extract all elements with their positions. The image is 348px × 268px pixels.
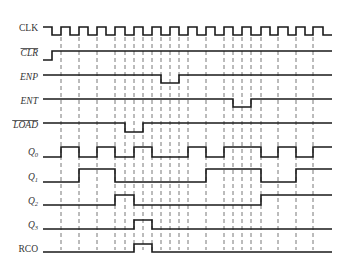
waveform-q1 [43, 169, 332, 182]
signal-label-q3: Q3 [28, 220, 39, 231]
signal-label-ent: ENT [20, 96, 39, 106]
timing-diagram: CLKCLRENPENTLOADQ0Q1Q2Q3RCO [0, 0, 348, 268]
signal-label-q2: Q2 [28, 196, 39, 207]
waveform-q2 [43, 195, 332, 205]
signal-waveforms [43, 27, 332, 252]
waveform-enp [43, 75, 332, 83]
signal-label-q0: Q0 [28, 147, 39, 158]
waveform-rco [43, 244, 332, 252]
waveform-q0 [43, 147, 332, 157]
signal-label-clk: CLK [19, 23, 38, 33]
waveform-q3 [43, 220, 332, 229]
waveform-load [43, 123, 332, 132]
signal-label-rco: RCO [18, 244, 38, 254]
clock-edge-guides [61, 37, 313, 250]
waveform-clr [43, 51, 332, 60]
waveform-clk [43, 27, 332, 35]
signal-labels: CLKCLRENPENTLOADQ0Q1Q2Q3RCO [12, 23, 39, 254]
signal-label-load: LOAD [12, 120, 38, 130]
signal-label-q1: Q1 [28, 172, 38, 183]
signal-label-enp: ENP [19, 72, 38, 82]
signal-label-clr: CLR [21, 48, 39, 58]
waveform-ent [43, 99, 332, 107]
